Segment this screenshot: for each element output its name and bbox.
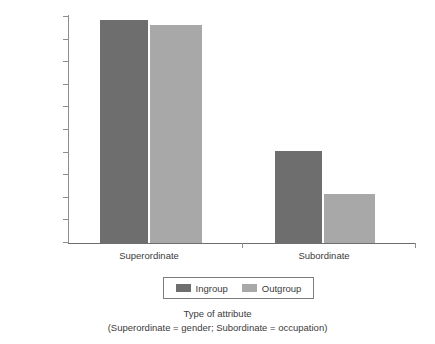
bar-subordinate-outgroup [324,194,375,243]
x-category-label-subordinate: Subordinate [264,250,384,261]
x-tick-mark [242,243,243,248]
bar-superordinate-outgroup [150,25,202,243]
bar-chart: Recall of target attribute 10.90.80.70.6… [0,0,435,344]
bars-layer [0,0,435,243]
x-axis-title-line1: Type of attribute [183,308,251,319]
legend-label-outgroup: Outgroup [262,283,302,294]
legend-swatch-ingroup [176,284,191,292]
x-axis-title-line2: (Superordinate = gender; Subordinate = o… [0,321,435,335]
bar-subordinate-ingroup [275,151,322,243]
legend-entry-ingroup: Ingroup [176,283,228,294]
x-axis-title: Type of attribute (Superordinate = gende… [0,307,435,335]
x-tick-mark [415,243,416,248]
legend-entry-outgroup: Outgroup [242,283,302,294]
x-category-label-superordinate: Superordinate [89,250,209,261]
legend-label-ingroup: Ingroup [196,283,228,294]
chart-legend: IngroupOutgroup [163,277,314,299]
legend-swatch-outgroup [242,284,257,292]
bar-superordinate-ingroup [100,20,148,243]
